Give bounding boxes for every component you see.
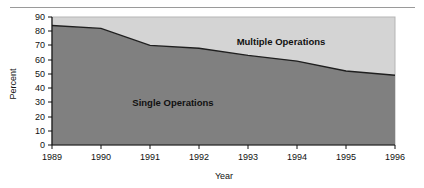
x-tick-label-1996: 1996 [385,152,405,162]
x-tick-label-1993: 1993 [238,152,258,162]
x-axis-title: Year [215,171,233,181]
stacked-area-chart: 90 80 70 60 50 40 30 20 10 0 1989 1990 1… [0,0,424,188]
y-tick-label-90: 90 [35,12,45,22]
y-tick-label-60: 60 [35,55,45,65]
y-axis-title: Percent [8,68,18,100]
x-tick-label-1989: 1989 [42,152,62,162]
x-tick-label-1991: 1991 [140,152,160,162]
series-label-single-operations: Single Operations [132,97,213,108]
y-tick-label-20: 20 [35,112,45,122]
x-axis-ticks [52,145,395,149]
y-tick-label-80: 80 [35,26,45,36]
x-tick-label-1995: 1995 [336,152,356,162]
x-tick-label-1994: 1994 [287,152,307,162]
chart-figure: 90 80 70 60 50 40 30 20 10 0 1989 1990 1… [0,0,424,188]
x-tick-label-1992: 1992 [189,152,209,162]
y-tick-label-0: 0 [40,140,45,150]
y-tick-label-70: 70 [35,40,45,50]
y-tick-label-50: 50 [35,69,45,79]
y-tick-label-30: 30 [35,97,45,107]
y-tick-label-10: 10 [35,126,45,136]
series-label-multiple-operations: Multiple Operations [237,36,326,47]
y-tick-label-40: 40 [35,83,45,93]
x-tick-label-1990: 1990 [91,152,111,162]
